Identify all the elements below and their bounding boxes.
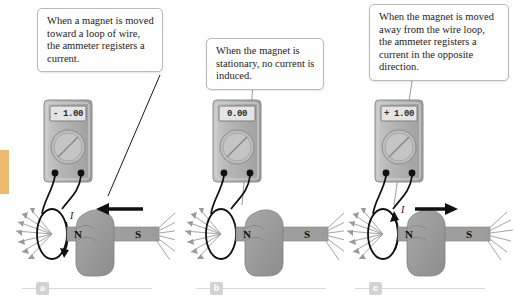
hand-b <box>245 210 283 276</box>
north-pole-label-b: N <box>240 227 254 241</box>
panel-letter-a: a <box>36 282 49 295</box>
panel-c: + 1.00 N S I <box>337 0 515 305</box>
north-pole-label-a: N <box>71 227 85 241</box>
hand-c <box>407 210 445 276</box>
current-arrow-c <box>390 211 399 250</box>
current-label-c: I <box>401 204 404 215</box>
south-pole-label-a: S <box>131 227 145 241</box>
panel-b: 0.00 N S <box>172 0 344 305</box>
panel-c-artwork <box>337 0 515 305</box>
figure-canvas: When a magnet is moved toward a loop of … <box>0 0 515 305</box>
ammeter-reading-c: + 1.00 <box>381 106 417 121</box>
ammeter-reading-a: - 1.00 <box>50 106 86 121</box>
panel-letter-c: c <box>369 282 382 295</box>
panel-a: - 1.00 N S I <box>0 0 175 305</box>
south-pole-label-b: S <box>300 227 314 241</box>
north-pole-label-c: N <box>402 227 416 241</box>
panel-rule-c: c <box>355 282 485 296</box>
field-arrowheads-north-b <box>185 208 204 259</box>
current-label-a: I <box>70 210 73 221</box>
field-arrowheads-north-c <box>347 208 366 259</box>
field-arrowheads-north-a <box>16 208 35 259</box>
panel-a-artwork <box>0 0 175 305</box>
panel-rule-a: a <box>22 282 152 296</box>
hand-a <box>76 210 114 276</box>
south-pole-label-c: S <box>462 227 476 241</box>
panel-b-artwork <box>172 0 344 305</box>
ammeter-reading-b: 0.00 <box>219 106 255 121</box>
panel-letter-b: b <box>210 282 223 295</box>
panel-rule-b: b <box>196 282 326 296</box>
